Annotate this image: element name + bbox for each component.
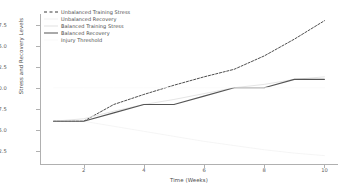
x-tick-mark	[204, 164, 205, 168]
series-line	[54, 121, 325, 155]
y-tick-label: 5.0	[0, 127, 7, 133]
legend-label: Unbalanced Recovery	[61, 16, 116, 22]
legend-label: Balanced Recovery	[61, 30, 110, 36]
x-axis-spine	[40, 164, 338, 165]
legend-item[interactable]: Injury Threshold	[44, 37, 130, 43]
x-axis-label: Time (Weeks)	[40, 177, 338, 183]
y-tick-label: 10.0	[0, 85, 7, 91]
x-tick-mark	[84, 164, 85, 168]
y-tick-label: 12.5	[0, 64, 7, 70]
y-tick-label: 15.0	[0, 43, 7, 49]
y-tick-label: 7.5	[0, 106, 7, 112]
y-tick-label: 2.5	[0, 148, 7, 154]
chart-legend: Unbalanced Training StressUnbalanced Rec…	[44, 9, 130, 43]
legend-item[interactable]: Unbalanced Recovery	[44, 16, 130, 22]
legend-line-swatch	[44, 23, 58, 29]
legend-line-swatch	[44, 37, 58, 43]
chart-figure: 2.55.07.510.012.515.017.5 246810 Stress …	[0, 0, 350, 192]
legend-label: Injury Threshold	[61, 37, 102, 43]
legend-line-swatch	[44, 16, 58, 22]
x-tick-mark	[264, 164, 265, 168]
legend-line-swatch	[44, 30, 58, 36]
legend-item[interactable]: Unbalanced Training Stress	[44, 9, 130, 15]
legend-item[interactable]: Balanced Training Stress	[44, 23, 130, 29]
series-line	[54, 77, 325, 121]
legend-label: Balanced Training Stress	[61, 23, 124, 29]
legend-item[interactable]: Balanced Recovery	[44, 30, 130, 36]
legend-line-swatch	[44, 9, 58, 15]
y-tick-label: 17.5	[0, 22, 7, 28]
y-axis-label: Stress and Recovery Levels	[18, 6, 24, 106]
x-tick-mark	[144, 164, 145, 168]
legend-label: Unbalanced Training Stress	[61, 9, 130, 15]
x-tick-mark	[324, 164, 325, 168]
